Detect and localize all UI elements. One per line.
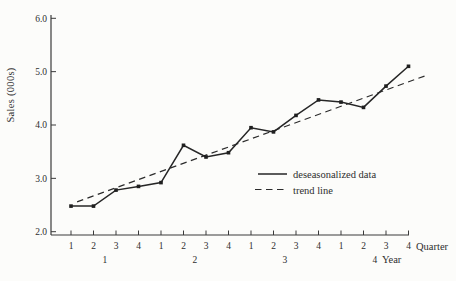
data-point-marker bbox=[294, 114, 298, 118]
quarter-tick-label: 1 bbox=[339, 241, 344, 251]
y-tick-label: 2.0 bbox=[35, 227, 47, 237]
chart-figure: 2.03.04.05.06.012341234123412341234 Sale… bbox=[0, 0, 456, 281]
quarter-tick-label: 2 bbox=[271, 241, 276, 251]
data-point-marker bbox=[384, 84, 388, 88]
y-tick-label: 4.0 bbox=[35, 120, 47, 130]
y-tick-label: 6.0 bbox=[35, 14, 47, 24]
year-tick-label: 2 bbox=[192, 255, 197, 265]
quarter-tick-label: 3 bbox=[294, 241, 299, 251]
data-point-marker bbox=[159, 181, 163, 185]
legend-label-deseasonalized: deseasonalized data bbox=[293, 169, 376, 180]
sales-trend-chart: 2.03.04.05.06.012341234123412341234 Sale… bbox=[0, 0, 456, 281]
trend-line bbox=[77, 76, 425, 202]
quarter-tick-label: 3 bbox=[204, 241, 209, 251]
quarter-tick-label: 2 bbox=[181, 241, 186, 251]
quarter-tick-label: 4 bbox=[406, 241, 411, 251]
y-axis-title: Sales (000s) bbox=[5, 67, 17, 122]
quarter-tick-label: 3 bbox=[384, 241, 389, 251]
quarter-tick-label: 4 bbox=[136, 241, 141, 251]
data-point-marker bbox=[272, 130, 276, 134]
data-point-marker bbox=[182, 144, 186, 148]
y-tick-label: 5.0 bbox=[35, 67, 47, 77]
quarter-tick-label: 2 bbox=[361, 241, 366, 251]
data-point-marker bbox=[227, 151, 231, 155]
y-tick-label: 3.0 bbox=[35, 174, 47, 184]
data-point-marker bbox=[407, 65, 411, 69]
quarter-tick-label: 1 bbox=[249, 241, 254, 251]
quarter-tick-label: 1 bbox=[69, 241, 74, 251]
quarter-tick-label: 3 bbox=[114, 241, 119, 251]
quarter-tick-label: 4 bbox=[316, 241, 321, 251]
year-tick-label: 4 bbox=[372, 255, 377, 265]
quarter-tick-label: 1 bbox=[159, 241, 164, 251]
legend-label-trend: trend line bbox=[293, 185, 333, 196]
data-point-marker bbox=[137, 185, 141, 189]
year-tick-label: 1 bbox=[102, 255, 107, 265]
x-axis-quarter-label: Quarter bbox=[416, 241, 449, 252]
data-point-marker bbox=[317, 98, 321, 102]
data-point-marker bbox=[92, 204, 96, 208]
legend: deseasonalized data trend line bbox=[255, 169, 376, 196]
quarter-tick-label: 4 bbox=[226, 241, 231, 251]
x-axis-year-label: Year bbox=[382, 254, 402, 265]
year-tick-label: 3 bbox=[282, 255, 287, 265]
data-point-marker bbox=[249, 126, 253, 130]
data-point-marker bbox=[339, 100, 343, 104]
data-point-marker bbox=[69, 204, 73, 208]
data-point-marker bbox=[204, 155, 208, 159]
quarter-tick-label: 2 bbox=[91, 241, 96, 251]
data-point-marker bbox=[114, 188, 118, 192]
data-point-marker bbox=[362, 106, 366, 110]
